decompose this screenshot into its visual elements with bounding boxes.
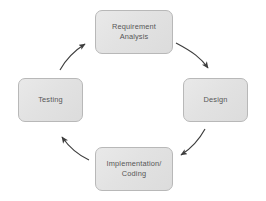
node-testing-label: Testing [35,95,65,105]
node-design[interactable]: Design [183,78,248,122]
sdlc-cycle-diagram: Requirement Analysis Design Implementati… [0,0,266,201]
arrow-requirement-to-design [176,43,208,68]
arrow-implementation-to-testing [62,137,89,160]
node-design-label: Design [201,95,231,105]
node-implementation-coding[interactable]: Implementation/ Coding [95,147,173,191]
arrow-design-to-implementation [181,129,205,155]
node-testing[interactable]: Testing [18,78,83,122]
arrow-testing-to-requirement [60,44,85,70]
node-requirement-analysis[interactable]: Requirement Analysis [95,10,173,54]
node-requirement-analysis-label: Requirement Analysis [109,22,159,42]
node-implementation-coding-label: Implementation/ Coding [104,159,165,179]
